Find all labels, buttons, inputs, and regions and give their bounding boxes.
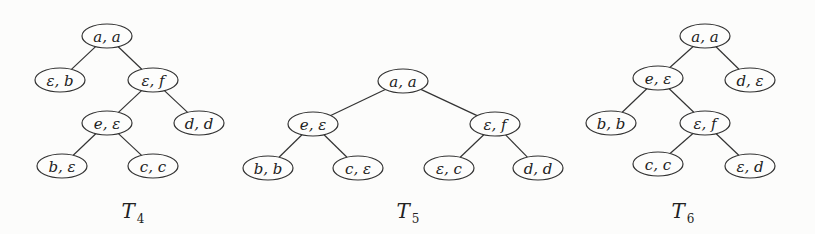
tree-edge xyxy=(73,134,96,156)
tree-t6: a, ae, εd, εb, bε, fc, cε, dT6 xyxy=(586,24,775,226)
tree-edge xyxy=(506,135,528,157)
tree-node: ε, f xyxy=(470,112,520,136)
tree-node: b, b xyxy=(243,156,293,180)
tree-node: a, a xyxy=(378,69,428,93)
tree-node: c, ε xyxy=(333,156,383,180)
tree-edge xyxy=(670,47,693,68)
node-label: e, ε xyxy=(300,116,326,134)
tree-node: ε, b xyxy=(35,68,85,92)
tree-caption: T5 xyxy=(397,199,420,226)
tree-edge xyxy=(331,89,386,115)
node-label: ε, f xyxy=(141,72,167,90)
caption-subscript: 6 xyxy=(687,212,695,226)
node-label: ε, c xyxy=(436,160,463,178)
node-label: c, ε xyxy=(345,160,371,178)
caption-subscript: 5 xyxy=(412,212,420,226)
tree-edge xyxy=(622,89,647,113)
caption-letter: T xyxy=(122,199,137,223)
node-label: a, a xyxy=(389,73,416,91)
tree-node: ε, c xyxy=(424,156,474,180)
tree-t5: a, ae, εε, fb, bc, εε, cd, dT5 xyxy=(243,69,563,226)
tree-node: b, b xyxy=(586,111,636,135)
caption-subscript: 4 xyxy=(137,212,145,226)
node-label: b, ε xyxy=(48,158,75,176)
node-label: d, ε xyxy=(736,72,763,90)
tree-node: ε, f xyxy=(128,68,178,92)
node-label: a, a xyxy=(93,28,120,46)
tree-node: ε, d xyxy=(725,154,775,178)
tree-edge xyxy=(716,47,739,69)
tree-edge xyxy=(164,91,187,113)
node-label: ε, f xyxy=(483,116,509,134)
tree-node: e, ε xyxy=(288,112,338,136)
tree-diagram: a, aε, bε, fe, εd, db, εc, cT4a, ae, εε,… xyxy=(0,0,815,234)
tree-node: ε, f xyxy=(680,111,730,135)
node-label: b, b xyxy=(597,115,626,133)
tree-edge xyxy=(279,135,302,157)
tree-node: d, ε xyxy=(725,68,775,92)
node-label: c, c xyxy=(140,158,167,176)
node-label: e, ε xyxy=(645,70,671,88)
node-label: d, d xyxy=(185,115,214,133)
tree-edge xyxy=(324,135,347,157)
tree-edge xyxy=(118,47,142,70)
tree-edge xyxy=(118,134,141,156)
tree-node: c, c xyxy=(128,154,178,178)
tree-node: d, d xyxy=(174,111,224,135)
tree-t4: a, aε, bε, fe, εd, db, εc, cT4 xyxy=(35,24,224,226)
node-label: c, c xyxy=(645,156,672,174)
node-label: ε, f xyxy=(693,115,719,133)
tree-node: c, c xyxy=(633,152,683,176)
tree-node: e, ε xyxy=(633,66,683,90)
node-label: d, d xyxy=(524,160,553,178)
node-label: ε, b xyxy=(46,72,73,90)
node-label: ε, d xyxy=(736,158,763,176)
node-label: a, a xyxy=(691,28,718,46)
tree-node: e, ε xyxy=(82,111,132,135)
caption-letter: T xyxy=(397,199,412,223)
tree-edge xyxy=(421,89,477,115)
node-label: e, ε xyxy=(94,115,120,133)
tree-edge xyxy=(716,134,739,156)
tree-node: a, a xyxy=(680,24,730,48)
tree-edge xyxy=(71,47,95,70)
tree-edge xyxy=(670,134,693,154)
tree-node: b, ε xyxy=(37,154,87,178)
tree-node: a, a xyxy=(82,24,132,48)
node-label: b, b xyxy=(254,160,283,178)
tree-edge xyxy=(669,89,694,113)
caption-letter: T xyxy=(672,199,687,223)
tree-edge xyxy=(118,91,141,113)
tree-caption: T6 xyxy=(672,199,695,226)
tree-edge xyxy=(460,135,484,158)
tree-caption: T4 xyxy=(122,199,145,226)
tree-node: d, d xyxy=(513,156,563,180)
